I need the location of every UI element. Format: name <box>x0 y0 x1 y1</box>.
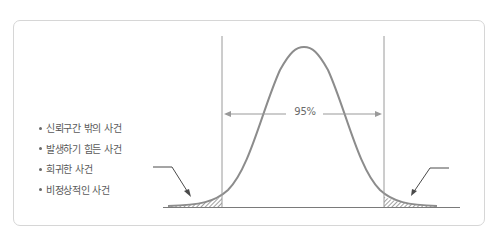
bullet-item: 희귀한 사건 <box>39 160 121 181</box>
bullet-item: 발생하기 힘든 사건 <box>39 140 121 161</box>
bullet-item: 신뢰구간 밖의 사건 <box>39 119 121 140</box>
bullet-list: 신뢰구간 밖의 사건 발생하기 힘든 사건 희귀한 사건 비정상적인 사건 <box>39 119 121 201</box>
bullet-dot-icon <box>39 127 42 130</box>
right-callout-arrow <box>411 168 449 196</box>
bullet-dot-icon <box>39 147 42 150</box>
left-callout-arrow <box>153 167 191 197</box>
bullet-dot-icon <box>39 168 42 171</box>
bullet-dot-icon <box>39 188 42 191</box>
interval-percent-label: 95% <box>289 106 321 117</box>
bell-curve <box>168 47 437 206</box>
bullet-item: 비정상적인 사건 <box>39 181 121 202</box>
